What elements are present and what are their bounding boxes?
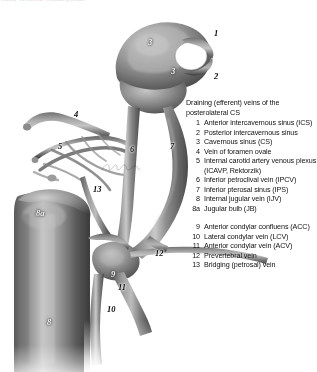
legend-label: Inferior petroclival vein (IPCV)	[204, 175, 317, 185]
legend-item-7: 7 Inferior pterosal sinus (IPS)	[186, 185, 317, 195]
legend-item-5: 5 Internal carotid artery venous plexus …	[186, 156, 317, 175]
legend-label: Bridging (petrosal) vein	[204, 260, 317, 270]
clipped-text-strip: veins, vertebral venous plexus	[0, 0, 317, 9]
legend-item-11: 11 Anterior condylar vein (ACV)	[186, 241, 317, 251]
legend-item-4: 4 Vein of foramen ovale	[186, 147, 317, 157]
legend-number: 3	[186, 137, 204, 147]
legend-label: Internal carotid artery venous plexus (I…	[204, 156, 317, 175]
legend-spacer	[186, 213, 317, 222]
legend-item-8: 8 Internal jugular vein (IJV)	[186, 194, 317, 204]
clipped-text: veins, vertebral venous plexus	[0, 0, 85, 3]
callout-11: 11	[118, 283, 126, 292]
legend-label: Internal jugular vein (IJV)	[204, 194, 317, 204]
legend: Draining (efferent) veins of the postero…	[186, 98, 317, 270]
callout-7: 7	[170, 142, 174, 151]
legend-number: 10	[186, 232, 204, 242]
legend-label: Anterior condylar vein (ACV)	[204, 241, 317, 251]
legend-label: Jugular bulb (JB)	[204, 204, 317, 214]
legend-title: Draining (efferent) veins of the postero…	[186, 98, 317, 117]
callout-6: 6	[130, 145, 134, 154]
legend-number: 2	[186, 128, 204, 138]
callout-3-upper: 3	[148, 38, 152, 47]
legend-item-3: 3 Cavernous sinus (CS)	[186, 137, 317, 147]
legend-number: 4	[186, 147, 204, 157]
legend-number: 12	[186, 251, 204, 261]
legend-number: 1	[186, 118, 204, 128]
callout-13: 13	[93, 185, 102, 194]
legend-label: Inferior pterosal sinus (IPS)	[204, 185, 317, 195]
legend-number: 8a	[186, 204, 204, 214]
callout-9: 9	[111, 270, 115, 279]
legend-label: Anterior condylar confluens (ACC)	[204, 222, 317, 232]
callout-8a: 8a	[36, 209, 45, 218]
legend-number: 7	[186, 185, 204, 195]
callout-10: 10	[107, 305, 116, 314]
legend-item-2: 2 Posterior intercavernous sinus	[186, 128, 317, 138]
legend-label: Posterior intercavernous sinus	[204, 128, 317, 138]
legend-item-12: 12 Prevertebral vein	[186, 251, 317, 261]
callout-2: 2	[214, 72, 218, 81]
artist-signature	[100, 160, 144, 174]
legend-label: Lateral condylar vein (LCV)	[204, 232, 317, 242]
legend-item-13: 13 Bridging (petrosal) vein	[186, 260, 317, 270]
legend-number: 6	[186, 175, 204, 185]
legend-item-1: 1 Anterior intercavernous sinus (ICS)	[186, 118, 317, 128]
legend-number: 11	[186, 241, 204, 251]
legend-item-6: 6 Inferior petroclival vein (IPCV)	[186, 175, 317, 185]
legend-number: 5	[186, 156, 204, 175]
callout-8: 8	[47, 318, 51, 327]
legend-number: 13	[186, 260, 204, 270]
callout-5: 5	[58, 142, 62, 151]
callout-3-lower: 3	[171, 67, 175, 76]
legend-number: 8	[186, 194, 204, 204]
legend-item-8a: 8a Jugular bulb (JB)	[186, 204, 317, 214]
legend-number: 9	[186, 222, 204, 232]
legend-item-9: 9 Anterior condylar confluens (ACC)	[186, 222, 317, 232]
legend-label: Anterior intercavernous sinus (ICS)	[204, 118, 317, 128]
legend-label: Vein of foramen ovale	[204, 147, 317, 157]
callout-1: 1	[214, 29, 218, 38]
callout-4: 4	[74, 110, 78, 119]
callout-12: 12	[155, 249, 164, 258]
legend-label: Cavernous sinus (CS)	[204, 137, 317, 147]
legend-item-10: 10 Lateral condylar vein (LCV)	[186, 232, 317, 242]
legend-label: Prevertebral vein	[204, 251, 317, 261]
